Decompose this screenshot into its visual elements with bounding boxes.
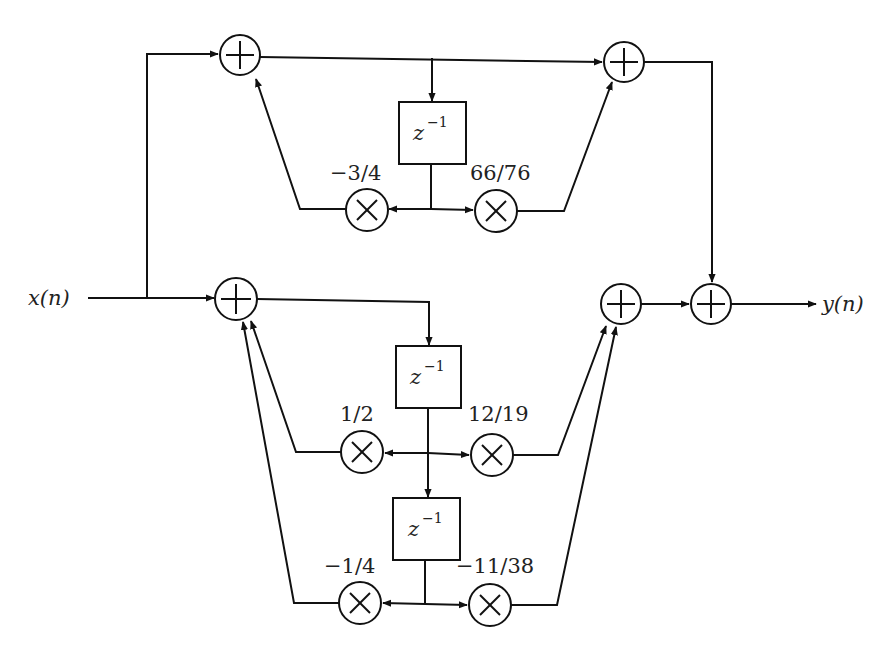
multiplier-mid-left xyxy=(341,431,383,473)
bottom-delay-input-wire xyxy=(257,299,429,345)
delay-label-exp: −1 xyxy=(422,510,443,526)
coef-top-left: −3/4 xyxy=(330,161,381,185)
block-diagram: x(n) z −1 −3/4 66/76 xyxy=(0,0,890,657)
adder-bottom-right xyxy=(601,284,641,324)
delay-block-top: z −1 xyxy=(399,102,466,164)
coef-top-right: 66/76 xyxy=(470,161,531,185)
multiplier-top-right xyxy=(475,190,517,232)
multiplier-bot-right xyxy=(469,584,511,626)
adder-top-left xyxy=(220,35,260,75)
input-branch-wire xyxy=(147,54,218,298)
bot-to-right-mult-wire xyxy=(425,604,467,605)
multiplier-top-left xyxy=(346,189,388,231)
coef-mid-right: 12/19 xyxy=(468,402,529,426)
coef-bot-right: −11/38 xyxy=(456,554,534,578)
top-section-output-wire xyxy=(644,62,712,282)
delay-label-exp: −1 xyxy=(424,358,445,374)
bot-to-left-mult-wire xyxy=(383,603,425,604)
output-label: y(n) xyxy=(821,292,864,316)
multiplier-mid-right xyxy=(471,434,513,476)
coef-bot-left: −1/4 xyxy=(324,554,375,578)
delay-label-z: z xyxy=(412,121,425,145)
multiplier-bot-left xyxy=(339,582,381,624)
delay-block-bottom: z −1 xyxy=(393,498,460,560)
top-feedforward-wire xyxy=(517,82,612,211)
top-to-right-mult-wire xyxy=(431,209,473,210)
adder-output xyxy=(691,284,731,324)
adder-bottom-left xyxy=(215,278,257,320)
delay-label-z: z xyxy=(409,365,422,389)
top-feedback-wire xyxy=(256,79,346,209)
delay-label-z: z xyxy=(407,517,420,541)
coef-mid-left: 1/2 xyxy=(340,402,374,426)
delay-label-exp: −1 xyxy=(427,114,448,130)
mid-to-right-mult-wire xyxy=(428,453,469,455)
mid-feedback-wire xyxy=(251,321,341,452)
input-label: x(n) xyxy=(28,286,70,310)
delay-block-middle: z −1 xyxy=(396,346,461,408)
adder-top-right xyxy=(604,42,644,82)
